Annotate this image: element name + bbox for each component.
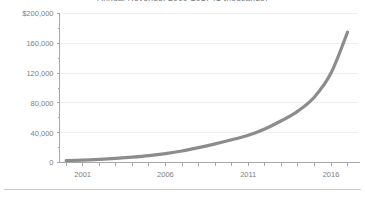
y-axis-labels-group: 040,00080,000120,000160,000$200,000	[22, 9, 53, 167]
y-tick-label: 80,000	[31, 99, 54, 108]
x-axis-labels-group: 2001200620112016	[74, 170, 339, 179]
y-tick-label: 120,000	[26, 69, 53, 78]
y-tick-label: 40,000	[31, 129, 54, 138]
y-tick-label: $200,000	[22, 9, 53, 18]
line-chart-plot: 040,00080,000120,000160,000$200,000 2001…	[0, 0, 365, 197]
x-tick-label: 2011	[240, 170, 256, 179]
x-tick-label: 2016	[323, 170, 340, 179]
y-tick-label: 160,000	[26, 39, 53, 48]
x-tick-label: 2001	[74, 170, 91, 179]
bottom-divider	[4, 189, 361, 190]
data-series-line	[66, 32, 347, 161]
gridlines-group	[60, 14, 358, 133]
y-tick-label: 0	[49, 158, 53, 167]
x-axis-ticks-group	[66, 163, 347, 167]
chart-figure: Annual Revenue, 2000-2017 ($ thousands) …	[0, 0, 365, 197]
x-tick-label: 2006	[157, 170, 174, 179]
